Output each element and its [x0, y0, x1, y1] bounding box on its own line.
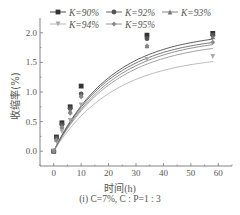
fit-curve-94 [54, 62, 213, 152]
x-axis-label: 时间(h) [0, 180, 240, 195]
y-tick-label: 1.5 [26, 57, 38, 67]
x-tick-label: 30 [132, 168, 142, 178]
y-tick-label: 0.5 [26, 117, 38, 127]
legend-label: K=92% [124, 8, 155, 18]
data-point [145, 36, 150, 41]
y-tick-label: 0.0 [26, 146, 38, 156]
legend-marker [112, 10, 117, 15]
legend-label: K=94% [68, 20, 99, 30]
y-tick-label: 1.0 [26, 87, 38, 97]
x-tick-label: 0 [51, 168, 56, 178]
legend-label: K=93% [180, 8, 211, 18]
y-tick-label: 2.0 [26, 28, 38, 38]
data-point [68, 111, 73, 116]
fit-curve-95 [54, 48, 213, 151]
axes: 01020304050600.00.51.01.52.0 [26, 18, 232, 178]
legend-marker [56, 10, 61, 15]
legend-label: K=90% [68, 8, 99, 18]
data-point [79, 84, 84, 89]
data-point [210, 54, 215, 59]
legend-marker [112, 22, 117, 27]
x-tick-label: 60 [214, 168, 224, 178]
x-tick-label: 20 [104, 168, 114, 178]
chart-caption: (i) C=7%, C : P=1 : 3 [0, 194, 240, 204]
x-tick-label: 10 [77, 168, 87, 178]
fit-curve-92 [54, 43, 213, 152]
fit-curve-93 [54, 45, 213, 152]
legend-label: K=95% [124, 20, 155, 30]
x-tick-label: 50 [186, 168, 196, 178]
data-markers [51, 31, 215, 154]
legend: K=90%K=92%K=93%K=94%K=95% [50, 8, 211, 30]
y-axis-label: 收缩率(%) [9, 72, 21, 119]
x-tick-label: 40 [159, 168, 169, 178]
fit-curve-90 [54, 39, 213, 151]
data-point [210, 40, 215, 45]
fit-curves [54, 39, 213, 151]
